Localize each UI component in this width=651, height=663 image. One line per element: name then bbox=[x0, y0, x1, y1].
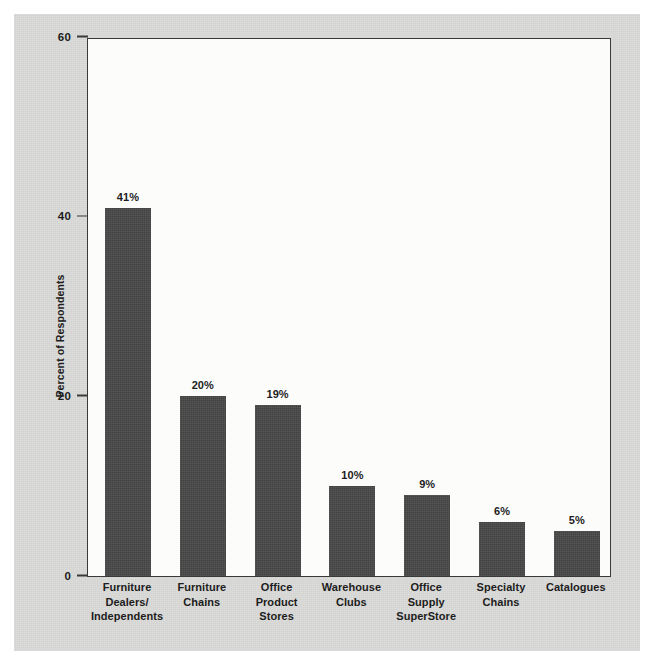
x-axis-category-label-line: Stores bbox=[217, 609, 337, 624]
bar-value-label: 9% bbox=[419, 478, 435, 490]
y-axis-tick-mark bbox=[77, 36, 88, 38]
x-axis-category-label-line: SuperStore bbox=[366, 609, 486, 624]
bar-value-label: 5% bbox=[569, 514, 585, 526]
x-axis-category-labels: FurnitureDealers/IndependentsFurnitureCh… bbox=[87, 580, 611, 640]
x-axis-category-label-line: Catalogues bbox=[516, 580, 636, 595]
y-axis-tick-mark bbox=[77, 395, 88, 397]
y-axis-tick-label: 60 bbox=[58, 30, 71, 42]
bar[interactable] bbox=[479, 522, 525, 576]
plot-area: 0204060 41%20%19%10%9%6%5% bbox=[87, 38, 611, 577]
bar-group[interactable]: 10% bbox=[329, 460, 375, 576]
x-axis-category-label: Catalogues bbox=[516, 580, 636, 595]
bar-group[interactable]: 5% bbox=[554, 505, 600, 576]
y-axis-title-text: Percent of Respondents bbox=[54, 275, 66, 398]
figure-panel: Percent of Respondents 0204060 41%20%19%… bbox=[14, 14, 640, 651]
bar[interactable] bbox=[255, 405, 301, 576]
bar-group[interactable]: 41% bbox=[105, 182, 151, 576]
bar[interactable] bbox=[105, 208, 151, 576]
bar[interactable] bbox=[329, 486, 375, 576]
bar-value-label: 19% bbox=[266, 388, 288, 400]
bar-value-label: 20% bbox=[192, 379, 214, 391]
y-axis-tick-label: 40 bbox=[58, 210, 71, 222]
y-axis-tick: 60 bbox=[42, 36, 88, 37]
y-axis-tick: 0 bbox=[42, 575, 88, 576]
bar-value-label: 41% bbox=[117, 191, 139, 203]
bar[interactable] bbox=[180, 396, 226, 576]
x-axis-category-label-line: Independents bbox=[67, 609, 187, 624]
bar[interactable] bbox=[554, 531, 600, 576]
bar-group[interactable]: 6% bbox=[479, 496, 525, 576]
bar-group[interactable]: 9% bbox=[404, 469, 450, 576]
y-axis-title: Percent of Respondents bbox=[51, 256, 69, 416]
x-axis-category-label-line: Chains bbox=[441, 595, 561, 610]
y-axis-tick-mark bbox=[77, 215, 88, 217]
bar-group[interactable]: 19% bbox=[255, 379, 301, 576]
bar-value-label: 6% bbox=[494, 505, 510, 517]
y-axis-tick-mark bbox=[77, 575, 88, 577]
bar-value-label: 10% bbox=[341, 469, 363, 481]
y-axis-tick: 40 bbox=[42, 215, 88, 216]
bar-group[interactable]: 20% bbox=[180, 370, 226, 576]
bars-layer: 41%20%19%10%9%6%5% bbox=[88, 39, 610, 576]
bar[interactable] bbox=[404, 495, 450, 576]
